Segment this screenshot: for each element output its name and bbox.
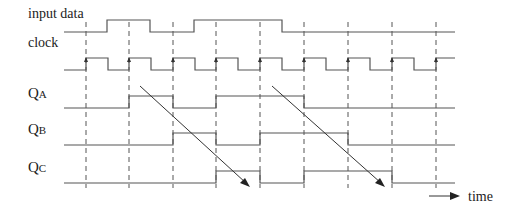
waveform-qb [64,133,455,145]
clock-edge-lines [86,22,436,188]
label-qa: QA [28,85,47,101]
time-label: time [468,189,493,204]
time-arrow-icon [429,192,460,200]
label-qc: QC [28,159,46,175]
propagation-arrow-1 [140,86,250,187]
waveform-qc [64,171,455,183]
label-qb: QB [28,121,46,137]
timing-diagram: input data clock QA QB QC [0,0,518,211]
propagation-arrow-2 [272,86,385,187]
label-clock: clock [28,35,58,50]
label-input-data: input data [28,6,84,21]
